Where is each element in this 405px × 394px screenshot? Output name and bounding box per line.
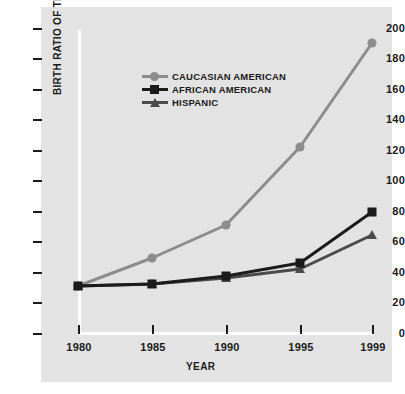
- square-marker-icon: [150, 85, 159, 94]
- legend-item-african-american: AFRICAN AMERICAN: [142, 83, 322, 96]
- data-point-marker: [147, 253, 156, 262]
- chart-figure: 200 180 160 140 120 100 80 60 40 20 0 BI…: [0, 0, 405, 394]
- data-point-marker: [222, 272, 231, 281]
- legend-swatch-hispanic: [142, 96, 168, 109]
- legend-label: AFRICAN AMERICAN: [168, 84, 271, 95]
- data-point-marker: [295, 142, 304, 151]
- legend-label: HISPANIC: [168, 97, 218, 108]
- data-point-marker: [296, 259, 305, 268]
- series-plot-area: [0, 0, 405, 394]
- circle-marker-icon: [150, 72, 159, 81]
- triangle-marker-icon: [150, 98, 160, 107]
- legend-item-caucasian-american: CAUCASIAN AMERICAN: [142, 70, 322, 83]
- data-point-marker: [367, 38, 376, 47]
- data-point-marker: [367, 230, 377, 239]
- data-point-marker: [148, 280, 157, 289]
- chart-legend: CAUCASIAN AMERICAN AFRICAN AMERICAN HISP…: [142, 70, 322, 109]
- legend-label: CAUCASIAN AMERICAN: [168, 71, 286, 82]
- series-african-american: [74, 208, 377, 291]
- data-point-marker: [74, 282, 83, 291]
- data-point-marker: [368, 208, 377, 217]
- data-point-marker: [221, 220, 230, 229]
- legend-swatch-african-american: [142, 83, 168, 96]
- legend-swatch-caucasian: [142, 70, 168, 83]
- legend-item-hispanic: HISPANIC: [142, 96, 322, 109]
